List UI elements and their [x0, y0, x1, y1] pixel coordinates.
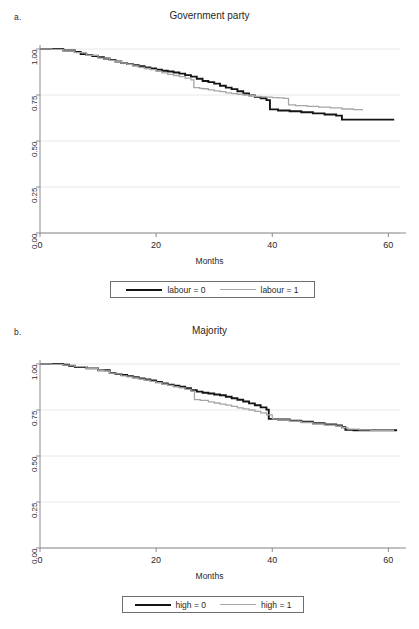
y-tick-label: 0.50	[30, 456, 39, 490]
x-tick-label: 20	[141, 240, 171, 250]
y-tick-label: 0.50	[30, 141, 39, 175]
legend-label: labour = 1	[261, 285, 299, 295]
x-tick-label: 40	[257, 555, 287, 565]
legend-swatch-0	[135, 604, 171, 606]
legend-label: labour = 0	[167, 285, 205, 295]
x-tick-label: 60	[373, 555, 403, 565]
legend-entry: high = 1	[213, 600, 299, 610]
legend-a: labour = 0labour = 1	[110, 281, 315, 298]
x-tick-label: 60	[373, 240, 403, 250]
legend-b: high = 0high = 1	[122, 596, 304, 613]
y-tick-label: 0.75	[30, 95, 39, 129]
legend-swatch-1	[220, 604, 256, 605]
legend-swatch-1	[220, 289, 256, 290]
x-tick-label: 40	[257, 240, 287, 250]
survival-curves-figure: a. Government party 0.000.250.500.751.00…	[0, 0, 419, 629]
series-line-0	[40, 49, 394, 120]
x-tick-label: 0	[25, 555, 55, 565]
legend-entry: high = 0	[128, 600, 214, 610]
y-tick-label: 0.25	[30, 187, 39, 221]
x-tick-label: 0	[25, 240, 55, 250]
y-tick-label: 1.00	[30, 364, 39, 398]
legend-swatch-0	[126, 289, 162, 291]
x-tick-label: 20	[141, 555, 171, 565]
x-axis-title-a: Months	[0, 256, 419, 266]
y-tick-label: 1.00	[30, 49, 39, 83]
y-tick-label: 0.25	[30, 502, 39, 536]
y-axis-labels-a: 0.000.250.500.751.00	[0, 0, 40, 314]
plot-area-b	[0, 315, 419, 565]
x-axis-title-b: Months	[0, 571, 419, 581]
legend-label: high = 0	[176, 600, 207, 610]
series-line-0	[40, 364, 397, 430]
legend-entry: labour = 1	[213, 285, 306, 295]
panel-majority: b. Majority 0.000.250.500.751.00 Months …	[0, 315, 419, 629]
y-axis-labels-b: 0.000.250.500.751.00	[0, 315, 40, 629]
legend-entry: labour = 0	[119, 285, 212, 295]
plot-area-a	[0, 0, 419, 250]
panel-government-party: a. Government party 0.000.250.500.751.00…	[0, 0, 419, 314]
series-line-1	[40, 364, 394, 430]
legend-label: high = 1	[261, 600, 292, 610]
y-tick-label: 0.75	[30, 410, 39, 444]
